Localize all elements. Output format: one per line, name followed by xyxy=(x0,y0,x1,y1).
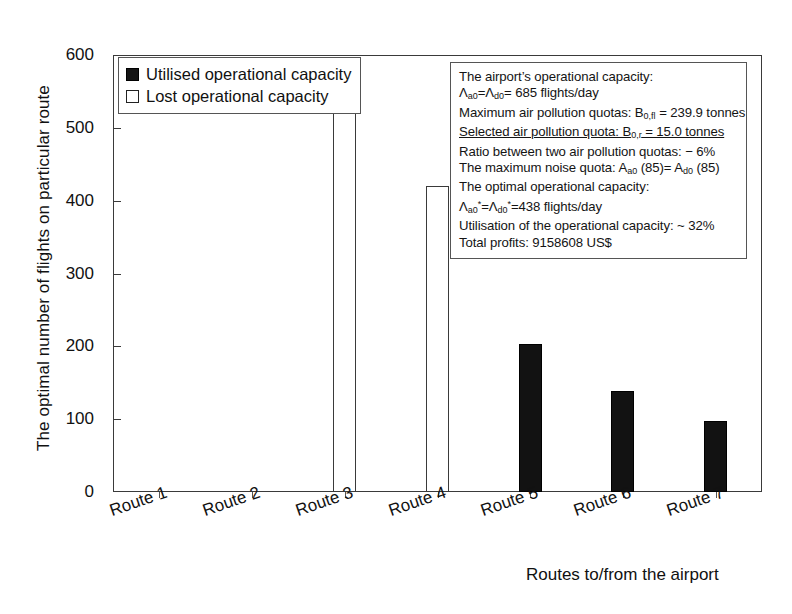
legend-swatch-hollow-icon xyxy=(126,90,139,103)
legend-label: Lost operational capacity xyxy=(146,87,329,106)
annotation-line-8: Utilisation of the operational capacity:… xyxy=(459,218,739,234)
bar-route-6 xyxy=(611,391,634,492)
bar-route-5 xyxy=(519,344,542,492)
legend-item-0: Utilised operational capacity xyxy=(126,63,351,85)
y-tick-mark xyxy=(113,274,121,275)
annotation-line-2: Maximum air pollution quotas: B0,fl = 23… xyxy=(459,105,739,124)
y-tick-mark xyxy=(113,201,121,202)
legend-label: Utilised operational capacity xyxy=(146,65,351,84)
y-tick-mark xyxy=(113,419,121,420)
y-tick-label: 0 xyxy=(14,482,94,502)
y-tick-label: 500 xyxy=(14,118,94,138)
legend-item-1: Lost operational capacity xyxy=(126,85,351,107)
y-tick-label: 400 xyxy=(14,191,94,211)
y-tick-label: 300 xyxy=(14,264,94,284)
legend-swatch-filled-icon xyxy=(126,68,139,81)
annotation-textbox: The airport’s operational capacity:Λa0=Λ… xyxy=(450,62,747,259)
annotation-line-5: The maximum noise quota: Aa0 (85)= Ad0 (… xyxy=(459,160,739,179)
bar-route-4 xyxy=(426,186,449,492)
bar-route-3 xyxy=(333,113,356,492)
annotation-line-7: Λa0*=Λd0*=438 flights/day xyxy=(459,196,739,218)
x-axis-title: Routes to/from the airport xyxy=(526,565,719,585)
chart-legend: Utilised operational capacityLost operat… xyxy=(118,57,361,114)
y-tick-label: 200 xyxy=(14,336,94,356)
y-tick-label: 600 xyxy=(14,45,94,65)
y-tick-label: 100 xyxy=(14,409,94,429)
annotation-line-3: Selected air pollution quota: B0,r = 15.… xyxy=(459,124,739,143)
y-tick-mark xyxy=(113,346,121,347)
chart-figure: The optimal number of flights on particu… xyxy=(0,0,792,614)
y-tick-mark xyxy=(113,128,121,129)
bar-route-7 xyxy=(704,421,727,492)
annotation-line-0: The airport’s operational capacity: xyxy=(459,69,739,85)
annotation-line-4: Ratio between two air pollution quotas: … xyxy=(459,144,739,160)
annotation-line-1: Λa0=Λd0= 685 flights/day xyxy=(459,85,739,104)
annotation-line-6: The optimal operational capacity: xyxy=(459,179,739,195)
annotation-line-9: Total profits: 9158608 US$ xyxy=(459,235,739,251)
